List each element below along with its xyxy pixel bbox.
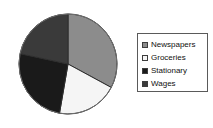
legend-label-newspapers: Newspapers — [151, 40, 195, 49]
legend-label-groceries: Groceries — [151, 53, 186, 62]
legend-swatch-newspapers — [142, 42, 148, 48]
legend-label-wages: Wages — [151, 79, 176, 88]
legend-item-groceries[interactable]: Groceries — [142, 51, 204, 64]
legend-item-wages[interactable]: Wages — [142, 77, 204, 90]
legend-swatch-wages — [142, 81, 148, 87]
legend-item-stationary[interactable]: Stationary — [142, 64, 204, 77]
pie-chart-figure: Newspapers Groceries Stationary Wages — [0, 0, 213, 128]
pie-chart-svg — [18, 13, 118, 115]
chart-legend: Newspapers Groceries Stationary Wages — [137, 33, 208, 92]
legend-item-newspapers[interactable]: Newspapers — [142, 38, 204, 51]
legend-swatch-stationary — [142, 68, 148, 74]
pie-chart — [18, 13, 118, 115]
legend-label-stationary: Stationary — [151, 66, 187, 75]
legend-swatch-groceries — [142, 55, 148, 61]
